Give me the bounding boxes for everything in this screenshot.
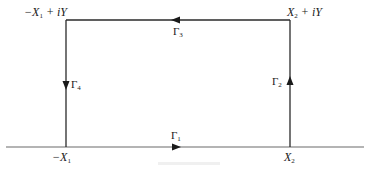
gamma4-label: Γ4: [71, 79, 81, 94]
corner-label-bottom-right: X2: [284, 151, 295, 167]
gamma4-arrow-down-icon: [63, 81, 70, 90]
contour-svg: [0, 0, 367, 170]
contour-diagram: −X1 + iY X2 + iY −X1 X2 Γ3 Γ4 Γ2 Γ1: [0, 0, 367, 170]
gamma3-arrow-left-icon: [171, 17, 180, 24]
corner-label-top-left: −X1 + iY: [24, 6, 67, 22]
gamma3-label: Γ3: [173, 26, 183, 41]
gamma1-label: Γ1: [171, 130, 181, 145]
gamma2-label: Γ2: [272, 76, 282, 91]
gamma2-arrow-up-icon: [287, 76, 294, 85]
corner-label-top-right: X2 + iY: [287, 6, 322, 22]
corner-label-bottom-left: −X1: [52, 151, 71, 167]
faded-caption: [158, 162, 220, 165]
